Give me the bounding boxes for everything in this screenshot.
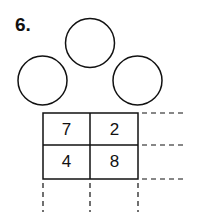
circle-top[interactable]	[66, 19, 115, 68]
grid-cell: 8	[91, 152, 138, 172]
puzzle-figure	[0, 0, 197, 223]
grid-cell: 2	[91, 120, 138, 140]
grid-cell: 7	[43, 120, 90, 140]
circle-left[interactable]	[18, 56, 67, 105]
grid-cell: 4	[43, 152, 90, 172]
circle-right[interactable]	[113, 56, 162, 105]
